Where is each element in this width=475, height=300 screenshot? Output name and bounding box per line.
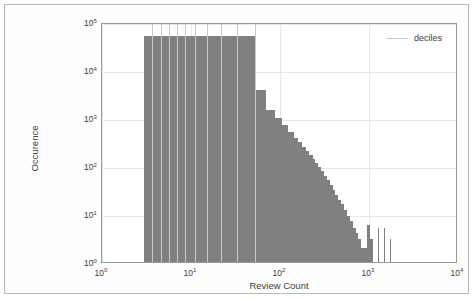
y-axis-label: Occurence <box>29 94 40 204</box>
decile-line <box>177 24 178 263</box>
gridline-vertical <box>102 24 103 262</box>
x-axis-ticks: 100101102103104 <box>101 267 457 281</box>
plot-area: deciles <box>101 23 457 263</box>
legend-label-deciles: deciles <box>414 33 442 43</box>
histogram-bar <box>390 239 391 262</box>
x-tick-label: 100 <box>94 267 107 278</box>
y-tick-label: 101 <box>84 210 97 221</box>
histogram-bar <box>370 239 373 262</box>
histogram-bar <box>255 90 266 262</box>
decile-line <box>169 24 170 263</box>
histogram-bar <box>266 110 275 262</box>
decile-line <box>221 24 222 263</box>
legend-line-icon <box>386 38 408 39</box>
x-tick-label: 104 <box>450 267 463 278</box>
legend[interactable]: deciles <box>380 30 448 46</box>
x-tick-label: 101 <box>183 267 196 278</box>
histogram-bar <box>384 228 385 262</box>
x-tick-label: 102 <box>272 267 285 278</box>
y-tick-label: 102 <box>84 162 97 173</box>
decile-line <box>207 24 208 263</box>
histogram-bar <box>275 118 282 262</box>
y-tick-label: 105 <box>84 18 97 29</box>
decile-line <box>195 24 196 263</box>
gridline-horizontal <box>102 24 456 25</box>
x-tick-label: 103 <box>361 267 374 278</box>
decile-line <box>161 24 162 263</box>
histogram-bar <box>378 228 379 262</box>
figure-frame: Occurence 100101102103104105 deciles 100… <box>4 4 469 294</box>
y-tick-label: 103 <box>84 114 97 125</box>
y-axis-ticks: 100101102103104105 <box>61 23 97 263</box>
y-tick-label: 104 <box>84 66 97 77</box>
decile-line <box>152 24 153 263</box>
decile-line <box>185 24 186 263</box>
x-axis-label: Review Count <box>101 280 457 291</box>
decile-line <box>255 24 256 263</box>
decile-line <box>237 24 238 263</box>
